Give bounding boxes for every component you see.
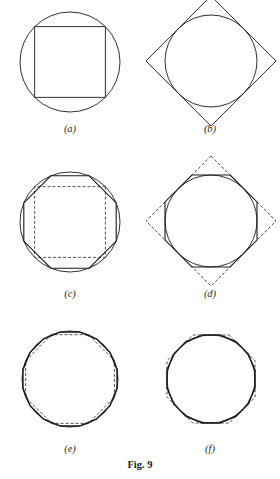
panel-label-d: (d) [204,288,217,300]
panel-label-b: (b) [204,123,217,135]
previous-inscribed-square-c [35,187,106,258]
panel-f: (f) [167,335,255,455]
panel-c: (c) [20,172,120,300]
panel-label-e: (e) [64,443,76,455]
panel-d: (d) [146,156,276,300]
panel-label-a: (a) [64,123,77,135]
circumscribed-polygon-d [165,175,257,267]
panel-label-c: (c) [64,288,76,300]
inscribed-polygon-a [35,27,106,98]
circle-b [165,15,257,107]
figure-9-archimedes-polygon-approximation: (a)(b)(c)(d)(e)(f) Fig. 9 [0,0,280,479]
inscribed-polygon-c [24,176,116,268]
panel-label-f: (f) [205,443,215,455]
circumscribed-polygon-f [167,335,255,423]
figure-panels: (a)(b)(c)(d)(e)(f) [20,0,276,455]
inscribed-polygon-e [23,332,117,426]
figure-caption: Fig. 9 [127,459,152,470]
panel-e: (e) [22,331,118,455]
panel-b: (b) [146,0,276,135]
panel-a: (a) [20,12,120,135]
previous-inscribed-octagon-e [26,335,115,424]
